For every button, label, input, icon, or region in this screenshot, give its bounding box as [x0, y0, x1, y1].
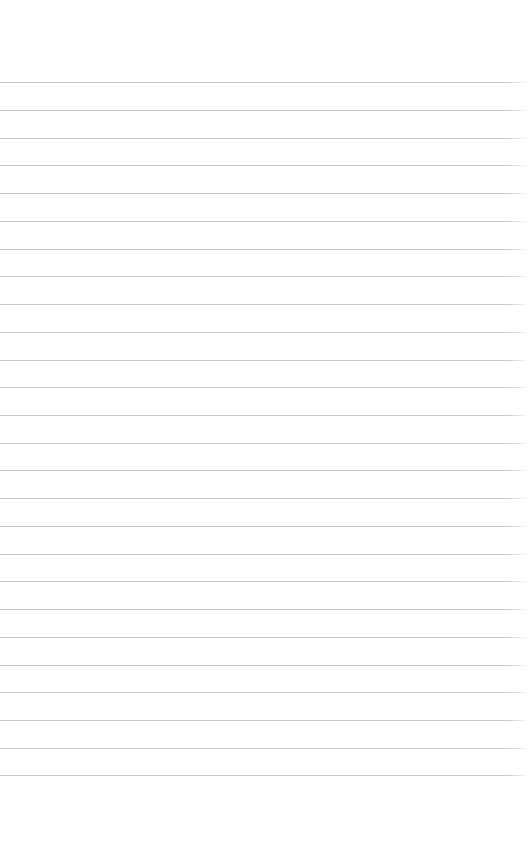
writing-row[interactable]	[0, 471, 528, 498]
writing-row[interactable]	[0, 416, 528, 443]
writing-row[interactable]	[0, 222, 528, 249]
writing-row[interactable]	[0, 333, 528, 360]
writing-row[interactable]	[0, 666, 528, 692]
writing-row[interactable]	[0, 527, 528, 554]
writing-row[interactable]	[0, 55, 528, 82]
writing-row[interactable]	[0, 83, 528, 110]
writing-row[interactable]	[0, 139, 528, 165]
writing-row[interactable]	[0, 388, 528, 415]
writing-row[interactable]	[0, 721, 528, 748]
writing-row[interactable]	[0, 749, 528, 775]
writing-row[interactable]	[0, 194, 528, 221]
ruled-writing-area[interactable]	[0, 0, 528, 862]
writing-row[interactable]	[0, 499, 528, 526]
writing-row[interactable]	[0, 361, 528, 387]
writing-row[interactable]	[0, 693, 528, 720]
writing-row[interactable]	[0, 250, 528, 276]
writing-row[interactable]	[0, 610, 528, 637]
writing-row[interactable]	[0, 582, 528, 609]
writing-row[interactable]	[0, 444, 528, 470]
writing-row[interactable]	[0, 305, 528, 332]
lined-paper-page	[0, 0, 528, 862]
bottom-margin	[0, 776, 528, 862]
writing-row[interactable]	[0, 277, 528, 304]
writing-row[interactable]	[0, 555, 528, 581]
writing-row[interactable]	[0, 111, 528, 138]
writing-row[interactable]	[0, 166, 528, 193]
writing-row[interactable]	[0, 638, 528, 665]
